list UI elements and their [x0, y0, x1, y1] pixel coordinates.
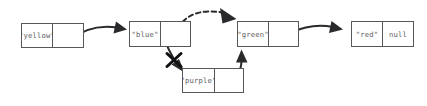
arrow-head-icon	[329, 21, 343, 33]
node-data-cell: "red"	[352, 22, 383, 46]
list-node-green: "green"	[237, 21, 299, 47]
arrow-head-icon	[236, 50, 248, 63]
node-data-cell: "purple"	[183, 69, 215, 92]
list-node-blue: "blue"	[129, 21, 191, 47]
node-next-cell	[215, 69, 243, 92]
list-node-purple: "purple"	[182, 68, 244, 93]
arrow-head-icon	[220, 8, 237, 24]
node-next-cell	[53, 24, 83, 47]
node-data-cell: "blue"	[130, 22, 161, 46]
linked-list-diagram: "yellow" "blue" "green" "red" null "purp…	[0, 0, 427, 106]
node-data-cell: "green"	[238, 22, 269, 46]
node-data-cell: "yellow"	[22, 24, 53, 47]
node-next-cell	[269, 22, 298, 46]
arrow-head-icon	[114, 22, 128, 34]
list-node-yellow: "yellow"	[21, 23, 84, 48]
node-null-cell: null	[383, 22, 413, 46]
node-next-cell	[161, 22, 190, 46]
list-node-red: "red" null	[351, 21, 414, 47]
